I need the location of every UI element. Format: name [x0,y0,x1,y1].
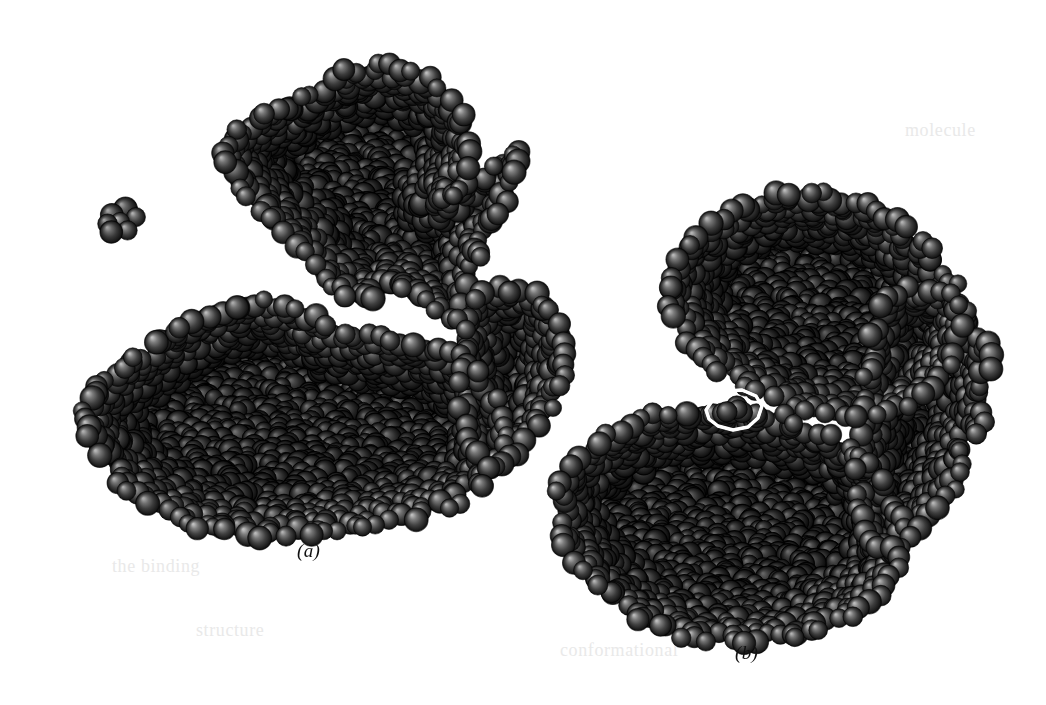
panel-b-canvas [0,0,1046,705]
panel-b-molecule [0,0,1046,705]
figure-container: the bindingproteindomain closureconforma… [0,0,1046,705]
panel-label-b: (b) [735,642,758,664]
panel-label-a: (a) [297,540,320,562]
